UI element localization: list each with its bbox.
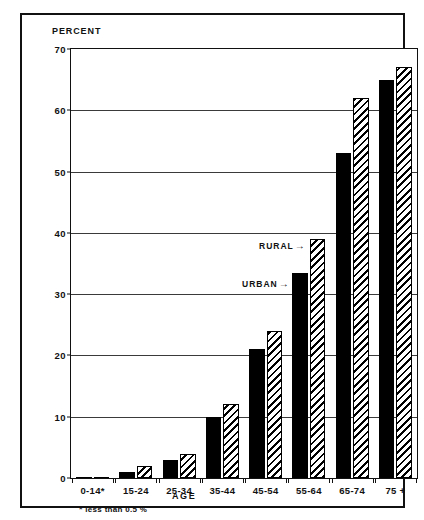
footnote: * less than 0.5 % xyxy=(79,504,147,514)
y-tick-label: 20 xyxy=(54,350,66,361)
y-tick-label: 0 xyxy=(60,473,66,484)
x-tick-mark xyxy=(72,478,73,483)
arrow-right-icon: → xyxy=(279,278,290,289)
x-tick-mark xyxy=(200,478,201,483)
footnote-marker: * xyxy=(79,504,83,514)
arrow-right-icon: → xyxy=(295,240,306,251)
x-tick-label: 0-14* xyxy=(81,485,105,496)
x-axis-title: AGE xyxy=(172,491,196,501)
y-tick-label: 30 xyxy=(54,289,66,300)
x-tick-label: 15-24 xyxy=(123,485,149,496)
bars-layer xyxy=(71,49,417,478)
x-tick-mark xyxy=(286,478,287,483)
y-tick-label: 60 xyxy=(54,105,66,116)
bar-rural-75+ xyxy=(396,67,412,478)
x-tick-mark xyxy=(245,478,246,483)
series-annotation-rural-label: RURAL xyxy=(259,241,294,251)
footnote-text: less than 0.5 % xyxy=(85,505,147,514)
x-tick-mark xyxy=(373,478,374,483)
y-tick-label: 70 xyxy=(54,44,66,55)
x-tick-mark xyxy=(159,478,160,483)
x-tick-mark xyxy=(115,478,116,483)
x-tick-label: 75 + xyxy=(385,485,405,496)
x-tick-mark xyxy=(332,478,333,483)
x-tick-mark xyxy=(243,478,244,483)
series-annotation-rural: RURAL→ xyxy=(259,240,306,251)
bar-group xyxy=(71,49,417,478)
x-tick-label: 35-44 xyxy=(209,485,235,496)
x-tick-mark xyxy=(416,478,417,483)
x-tick-label: 45-54 xyxy=(253,485,279,496)
y-tick-label: 50 xyxy=(54,166,66,177)
figure-frame: PERCENT 010203040506070 0-14*15-2425-343… xyxy=(20,13,405,508)
x-tick-mark xyxy=(288,478,289,483)
y-tick-label: 40 xyxy=(54,227,66,238)
bar-urban-75+ xyxy=(379,80,395,478)
x-tick-mark xyxy=(156,478,157,483)
x-tick-mark xyxy=(202,478,203,483)
series-annotation-urban: URBAN→ xyxy=(242,278,290,289)
x-tick-mark xyxy=(329,478,330,483)
y-axis-title: PERCENT xyxy=(52,26,101,36)
x-tick-label: 65-74 xyxy=(339,485,365,496)
x-tick-mark xyxy=(375,478,376,483)
x-tick-mark xyxy=(113,478,114,483)
plot-area: 010203040506070 0-14*15-2425-3435-4445-5… xyxy=(70,48,418,479)
x-tick-label: 55-64 xyxy=(296,485,322,496)
series-annotation-urban-label: URBAN xyxy=(242,279,278,289)
y-tick-label: 10 xyxy=(54,411,66,422)
